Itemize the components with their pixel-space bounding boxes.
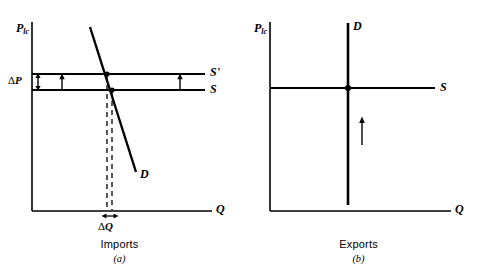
equilibrium-point-shifted bbox=[104, 71, 109, 76]
panel-imports-plot bbox=[0, 0, 239, 238]
delta-p-label: ΔP bbox=[8, 75, 22, 86]
supply-shifted-label: S' bbox=[210, 66, 220, 78]
equilibrium-point-initial bbox=[109, 87, 114, 92]
panel-imports: Plc Q S' S D ΔP ΔQ Imports (a) bbox=[0, 0, 239, 276]
shift-arrow bbox=[359, 117, 365, 146]
supply-label: S bbox=[210, 83, 217, 95]
shift-arrow-left bbox=[59, 74, 64, 89]
figure-container: Plc Q S' S D ΔP ΔQ Imports (a) bbox=[0, 0, 478, 276]
delta-q-label: ΔQ bbox=[98, 221, 113, 232]
equilibrium-point bbox=[345, 85, 351, 91]
y-axis-label: Plc bbox=[16, 22, 29, 34]
delta-q-arrow bbox=[102, 214, 119, 219]
panel-caption-name: Imports bbox=[0, 238, 239, 250]
x-axis-label: Q bbox=[455, 203, 464, 215]
demand-label: D bbox=[353, 20, 362, 32]
panel-caption-letter: (a) bbox=[0, 253, 239, 264]
shift-arrow-right bbox=[177, 74, 182, 89]
demand-label: D bbox=[140, 168, 149, 180]
y-axis-label: Plc bbox=[254, 22, 267, 34]
panel-exports: Plc Q D S Exports (b) bbox=[239, 0, 478, 276]
delta-p-arrow bbox=[35, 73, 40, 91]
demand-curve bbox=[90, 27, 136, 172]
supply-label: S bbox=[440, 81, 447, 93]
x-axis-label: Q bbox=[216, 203, 225, 215]
panel-exports-plot bbox=[239, 0, 478, 238]
panel-caption-letter: (b) bbox=[239, 253, 478, 264]
panel-caption-name: Exports bbox=[239, 238, 478, 250]
